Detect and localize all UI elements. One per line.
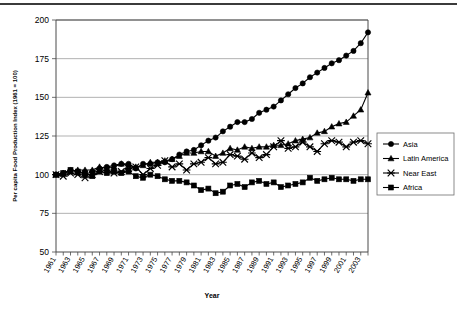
x-tick-label: 1999	[317, 256, 333, 275]
x-marker-icon	[183, 167, 191, 174]
x-marker-icon	[219, 159, 227, 166]
square-marker-icon	[61, 171, 66, 176]
circle-marker-icon	[199, 143, 204, 148]
x-axis-ticks: 1961196319651967196919711973197519771979…	[42, 252, 368, 274]
square-marker-icon	[278, 185, 283, 190]
x-tick-label: 1969	[100, 256, 116, 275]
x-tick-label: 1985	[216, 256, 232, 275]
x-marker-icon	[197, 159, 205, 166]
x-marker-icon	[241, 156, 249, 163]
y-tick-label: 75	[40, 208, 50, 218]
x-marker-icon	[350, 139, 358, 146]
square-marker-icon	[155, 174, 160, 179]
data-series	[52, 30, 372, 196]
x-marker-icon	[306, 144, 314, 151]
square-marker-icon	[249, 180, 254, 185]
square-marker-icon	[322, 177, 327, 182]
y-tick-label: 175	[35, 54, 49, 64]
triangle-marker-icon	[321, 128, 327, 133]
square-marker-icon	[68, 168, 73, 173]
square-marker-icon	[300, 180, 305, 185]
circle-marker-icon	[388, 141, 393, 146]
triangle-marker-icon	[307, 134, 313, 139]
circle-marker-icon	[329, 61, 334, 66]
circle-marker-icon	[307, 75, 312, 80]
circle-marker-icon	[365, 30, 370, 35]
x-marker-icon	[204, 154, 212, 161]
square-marker-icon	[83, 171, 88, 176]
square-marker-icon	[75, 169, 80, 174]
x-marker-icon	[292, 144, 300, 151]
circle-marker-icon	[336, 58, 341, 63]
legend-item-label: Asia	[403, 140, 418, 149]
square-marker-icon	[336, 177, 341, 182]
square-marker-icon	[329, 175, 334, 180]
x-marker-icon	[168, 164, 176, 171]
y-tick-label: 100	[35, 170, 49, 180]
circle-marker-icon	[286, 92, 291, 97]
series-line	[56, 170, 368, 193]
x-tick-label: 1995	[288, 256, 304, 275]
x-marker-icon	[212, 161, 220, 168]
x-marker-icon	[335, 139, 343, 146]
square-marker-icon	[54, 172, 59, 177]
circle-marker-icon	[358, 41, 363, 46]
square-marker-icon	[213, 191, 218, 196]
chart-figure: 5075100125150175200 19611963196519671969…	[0, 0, 457, 310]
chart-legend: AsiaLatin AmericaNear EastAfrica	[377, 133, 454, 195]
circle-marker-icon	[213, 135, 218, 140]
circle-marker-icon	[249, 116, 254, 121]
square-marker-icon	[366, 177, 371, 182]
square-marker-icon	[315, 178, 320, 183]
x-marker-icon	[190, 161, 198, 168]
x-tick-label: 1979	[172, 256, 188, 275]
x-tick-label: 1989	[245, 256, 261, 275]
x-marker-icon	[175, 161, 183, 168]
x-marker-icon	[328, 137, 336, 144]
square-marker-icon	[220, 189, 225, 194]
x-tick-label: 1977	[158, 256, 174, 275]
square-marker-icon	[177, 178, 182, 183]
x-marker-icon	[233, 153, 241, 160]
square-marker-icon	[112, 169, 117, 174]
x-tick-label: 1963	[56, 256, 72, 275]
square-marker-icon	[90, 174, 95, 179]
square-marker-icon	[228, 183, 233, 188]
square-marker-icon	[97, 169, 102, 174]
x-tick-label: 1997	[303, 256, 319, 275]
square-marker-icon	[162, 177, 167, 182]
x-tick-label: 1983	[201, 256, 217, 275]
series-africa	[54, 168, 371, 196]
x-tick-label: 1967	[85, 256, 101, 275]
square-marker-icon	[286, 183, 291, 188]
circle-marker-icon	[271, 104, 276, 109]
x-tick-label: 1975	[143, 256, 159, 275]
square-marker-icon	[126, 169, 131, 174]
circle-marker-icon	[278, 98, 283, 103]
circle-marker-icon	[257, 110, 262, 115]
square-marker-icon	[104, 171, 109, 176]
y-axis-ticks: 5075100125150175200	[35, 15, 56, 257]
circle-marker-icon	[228, 124, 233, 129]
circle-marker-icon	[300, 81, 305, 86]
legend-item-label: Latin America	[403, 154, 449, 163]
x-marker-icon	[321, 140, 329, 147]
square-marker-icon	[199, 188, 204, 193]
series-asia	[53, 30, 370, 177]
x-tick-label: 1991	[259, 256, 275, 275]
legend-item-label: Africa	[403, 183, 423, 192]
circle-marker-icon	[242, 119, 247, 124]
square-marker-icon	[389, 185, 394, 190]
square-marker-icon	[148, 172, 153, 177]
y-axis-title-text: Per capita Food Production Index (1961 =…	[12, 70, 18, 202]
triangle-marker-icon	[242, 144, 248, 149]
y-tick-label: 50	[40, 247, 50, 257]
square-marker-icon	[184, 180, 189, 185]
square-marker-icon	[293, 181, 298, 186]
square-marker-icon	[257, 178, 262, 183]
square-marker-icon	[344, 177, 349, 182]
x-axis-title: Year	[205, 292, 220, 299]
x-tick-label: 1987	[230, 256, 246, 275]
x-tick-label: 1981	[187, 256, 203, 275]
square-marker-icon	[141, 175, 146, 180]
